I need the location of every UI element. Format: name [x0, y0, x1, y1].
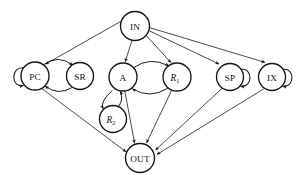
node-r2-label-subscript: 2 [112, 119, 115, 126]
node-a-label: A [120, 73, 127, 83]
node-sp[interactable]: SP [217, 64, 244, 91]
edge-in-to-sp [149, 31, 219, 64]
edge-pc-to-sr [44, 59, 73, 65]
edge-r1-to-out [147, 90, 172, 143]
self-loop-group [14, 68, 292, 87]
edge-group-from-in [45, 21, 265, 64]
edge-sp-to-out [156, 88, 222, 150]
edge-in-to-pc [45, 21, 121, 64]
node-ix-label: IX [267, 73, 277, 83]
node-in[interactable]: IN [121, 12, 150, 41]
node-sr[interactable]: SR [67, 63, 94, 90]
node-pc[interactable]: PC [21, 62, 49, 90]
node-pc-label: PC [29, 72, 41, 82]
edge-a-to-r1 [134, 61, 169, 67]
node-sp-label: SP [225, 73, 236, 83]
directed-graph-figure: IN PC SR A R1 [0, 0, 298, 182]
edge-sr-to-pc [45, 86, 72, 91]
node-in-label: IN [130, 22, 140, 32]
node-out-label: OUT [130, 154, 150, 164]
edge-in-to-ix [150, 28, 265, 63]
edge-r1-to-a [132, 88, 167, 94]
node-group: IN PC SR A R1 [21, 12, 286, 173]
node-r1[interactable]: R1 [163, 63, 191, 91]
node-out[interactable]: OUT [126, 144, 155, 173]
node-ix[interactable]: IX [259, 64, 286, 91]
edge-r2-to-a [119, 91, 122, 106]
graph-canvas: IN PC SR A R1 [0, 0, 298, 182]
edge-group-to-out [42, 88, 265, 154]
node-a[interactable]: A [109, 63, 137, 91]
node-r1-label-subscript: 1 [176, 77, 179, 84]
node-r2[interactable]: R2 [100, 106, 127, 133]
node-sr-label: SR [74, 72, 86, 82]
edge-in-to-a [125, 40, 132, 62]
